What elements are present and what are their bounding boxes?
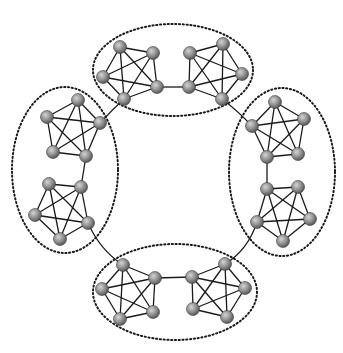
group-ellipses [12, 24, 335, 340]
node-right-bottom [251, 216, 264, 229]
clique-edge [267, 189, 283, 241]
node-left-bottom [82, 217, 95, 230]
node-right-top [292, 148, 305, 161]
clique-edge [257, 219, 310, 222]
clique-edge [47, 117, 100, 123]
node-right-top [261, 151, 274, 164]
node-bottom-left [114, 313, 127, 326]
graph-nodes [29, 38, 317, 326]
clique-edge [225, 264, 227, 317]
inter-group-link [225, 222, 257, 264]
node-left-bottom [43, 178, 56, 191]
node-top-right [184, 47, 197, 60]
node-bottom-right [219, 258, 232, 271]
node-top-left [114, 41, 127, 54]
node-top-left [118, 93, 131, 106]
clique-edge [267, 102, 275, 157]
clique-edge [252, 119, 304, 126]
node-top-right [183, 81, 196, 94]
clique-edge [222, 44, 223, 99]
clique-edge [120, 47, 124, 99]
clique-edge [120, 265, 123, 319]
node-bottom-right [221, 311, 234, 324]
node-right-bottom [277, 235, 290, 248]
node-bottom-left [147, 306, 160, 319]
clique-edge [267, 189, 310, 219]
node-right-bottom [304, 213, 317, 226]
node-left-bottom [75, 181, 88, 194]
node-left-bottom [29, 209, 42, 222]
node-top-right [216, 93, 229, 106]
node-top-left [147, 47, 160, 60]
node-bottom-right [239, 282, 252, 295]
node-left-top [80, 150, 93, 163]
node-right-top [298, 113, 311, 126]
node-bottom-left [149, 272, 162, 285]
node-right-top [246, 120, 259, 133]
node-bottom-right [187, 303, 200, 316]
node-top-left [151, 81, 164, 94]
network-diagram [0, 0, 343, 353]
node-bottom-left [117, 259, 130, 272]
node-bottom-right [186, 271, 199, 284]
node-top-right [217, 38, 230, 51]
node-top-right [236, 68, 249, 81]
node-left-top [41, 111, 54, 124]
node-left-top [94, 117, 107, 130]
node-top-left [97, 71, 110, 84]
group-ellipse-right [229, 88, 335, 256]
node-left-bottom [54, 233, 67, 246]
clique-edge [283, 187, 298, 241]
node-right-top [269, 96, 282, 109]
node-right-bottom [261, 183, 274, 196]
node-left-top [47, 146, 60, 159]
node-right-bottom [292, 181, 305, 194]
node-left-top [72, 94, 85, 107]
clique-edge [78, 100, 86, 156]
node-bottom-left [96, 283, 109, 296]
